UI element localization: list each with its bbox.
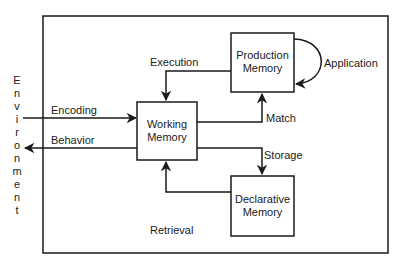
execution-arrow bbox=[166, 71, 231, 100]
working-memory-label: Working Memory bbox=[137, 118, 197, 144]
env-letter: r bbox=[12, 126, 22, 139]
env-letter: t bbox=[12, 204, 22, 217]
application-label: Application bbox=[324, 57, 378, 69]
pm-line1: Production bbox=[231, 49, 294, 62]
system-boundary bbox=[43, 16, 388, 253]
behavior-label: Behavior bbox=[51, 134, 94, 146]
match-label: Match bbox=[266, 112, 296, 124]
retrieval-label: Retrieval bbox=[150, 224, 193, 236]
env-letter: e bbox=[12, 178, 22, 191]
wm-line1: Working bbox=[137, 118, 197, 131]
declarative-memory-label: Declarative Memory bbox=[231, 193, 294, 219]
env-letter: n bbox=[12, 87, 22, 100]
env-letter: v bbox=[12, 100, 22, 113]
env-letter: m bbox=[12, 165, 22, 178]
storage-label: Storage bbox=[264, 149, 303, 161]
env-letter: o bbox=[12, 139, 22, 152]
production-memory-label: Production Memory bbox=[231, 49, 294, 75]
match-arrow bbox=[197, 94, 262, 122]
execution-label: Execution bbox=[150, 56, 198, 68]
retrieval-arrow bbox=[166, 162, 231, 192]
wm-line2: Memory bbox=[137, 131, 197, 144]
dm-line1: Declarative bbox=[231, 193, 294, 206]
encoding-label: Encoding bbox=[51, 104, 97, 116]
storage-arrow bbox=[197, 148, 262, 174]
diagram-canvas bbox=[0, 0, 401, 264]
dm-line2: Memory bbox=[231, 206, 294, 219]
env-letter: n bbox=[12, 191, 22, 204]
env-letter: i bbox=[12, 113, 22, 126]
env-letter: n bbox=[12, 152, 22, 165]
environment-label: E n v i r o n m e n t bbox=[12, 74, 22, 217]
application-loop-arrow bbox=[294, 39, 321, 84]
env-letter: E bbox=[12, 74, 22, 87]
pm-line2: Memory bbox=[231, 62, 294, 75]
